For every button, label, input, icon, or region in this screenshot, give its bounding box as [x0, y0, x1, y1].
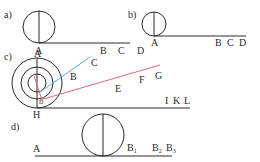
point-a: A [151, 37, 159, 48]
panel-a: a) A B C D [4, 9, 144, 56]
point-b3: B3 [166, 142, 176, 154]
panel-c-label: c) [4, 51, 12, 63]
point-k: K [173, 95, 181, 106]
blue-segment [40, 57, 90, 92]
point-c: C [91, 57, 98, 68]
point-b2: B2 [152, 142, 162, 154]
panel-d: d) A B1 B2 B3 [11, 114, 176, 156]
panel-d-label: d) [11, 121, 19, 133]
point-b: B [215, 37, 222, 48]
point-g: G [155, 70, 162, 81]
point-f: F [139, 74, 145, 85]
point-c: C [118, 45, 125, 56]
panel-a-label: a) [4, 9, 12, 21]
point-d: D [239, 37, 246, 48]
point-d: D [39, 99, 44, 105]
point-c: C [227, 37, 234, 48]
panel-b-label: b) [128, 9, 136, 21]
point-a: A [33, 143, 41, 154]
point-d: D [137, 45, 144, 56]
point-b: B [100, 45, 107, 56]
point-i: I [165, 95, 168, 106]
point-a-top: A [34, 48, 42, 59]
point-b: B [70, 71, 77, 82]
rolling-circle-diagram: a) A B C D b) A B C D c) A B C D E F G [0, 0, 260, 162]
red-radius [34, 76, 42, 100]
point-b1: B1 [127, 142, 137, 154]
point-h: H [33, 109, 40, 120]
point-e: E [115, 83, 121, 94]
point-l: L [184, 95, 190, 106]
panel-c: c) A B C D E F G H I K L [4, 48, 190, 120]
panel-b: b) A B C D [128, 9, 246, 48]
